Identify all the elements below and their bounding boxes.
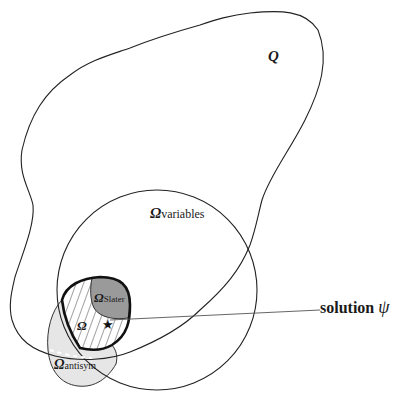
set-diagram: ★ (0, 0, 404, 399)
omega-slater-label: ΩSlater (94, 290, 125, 306)
omega-variables-label: Ωvariables (150, 205, 205, 222)
solution-label: solution ψ (320, 297, 389, 318)
omega-antisym-label: Ωantisym (54, 357, 96, 373)
omega-symbol: Ω (54, 357, 64, 372)
slater-subscript: Slater (104, 294, 125, 304)
q-label: Q (268, 48, 279, 65)
solution-star-icon: ★ (102, 317, 114, 332)
antisym-subscript: antisym (64, 360, 96, 371)
omega-label: Ω (77, 318, 87, 334)
solution-pointer-line (110, 310, 320, 320)
omega-symbol: Ω (150, 205, 161, 221)
variables-subscript: variables (161, 207, 204, 221)
omega-symbol: Ω (94, 290, 104, 305)
solution-text: solution (320, 299, 378, 316)
psi-symbol: ψ (378, 297, 389, 317)
